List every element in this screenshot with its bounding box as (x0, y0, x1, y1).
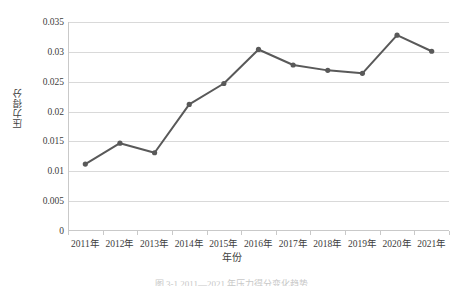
x-tick-mark (207, 231, 208, 235)
y-axis-tick-labels: 00.0050.010.0150.020.0250.030.035 (24, 0, 64, 286)
x-tick-mark (449, 231, 450, 235)
y-tick-label: 0.035 (24, 17, 64, 27)
x-tick-mark (414, 231, 415, 235)
x-axis-ticks (68, 231, 449, 237)
data-point-marker (221, 81, 226, 86)
data-point-marker (360, 71, 365, 76)
data-point-marker (291, 62, 296, 67)
x-axis-tick-labels: 2011年2012年2013年2014年2015年2016年2017年2018年… (68, 238, 451, 252)
data-point-marker (394, 33, 399, 38)
y-tick-label: 0.005 (24, 196, 64, 206)
data-point-marker (429, 49, 434, 54)
x-tick-mark (137, 231, 138, 235)
y-tick-label: 0.025 (24, 77, 64, 87)
y-tick-label: 0.01 (24, 166, 64, 176)
figure-caption: 图 3-1 2011—2021 年压力得分变化趋势 (0, 279, 463, 286)
x-tick-mark (172, 231, 173, 235)
data-point-marker (187, 102, 192, 107)
x-tick-mark (68, 231, 69, 235)
data-point-marker (117, 141, 122, 146)
data-point-marker (325, 68, 330, 73)
y-tick-label: 0 (24, 226, 64, 236)
x-tick-label: 2021年 (409, 238, 455, 250)
x-tick-mark (380, 231, 381, 235)
data-point-marker (83, 162, 88, 167)
x-tick-mark (276, 231, 277, 235)
chart-figure: 压力得分 00.0050.010.0150.020.0250.030.035 2… (0, 0, 463, 286)
x-tick-mark (241, 231, 242, 235)
data-series-line (68, 22, 449, 231)
y-tick-label: 0.03 (24, 47, 64, 57)
x-tick-mark (345, 231, 346, 235)
y-tick-label: 0.015 (24, 136, 64, 146)
x-axis-title: 年份 (0, 252, 463, 264)
x-tick-mark (310, 231, 311, 235)
data-point-marker (256, 47, 261, 52)
data-point-marker (152, 150, 157, 155)
series-polyline (85, 35, 431, 164)
y-tick-label: 0.02 (24, 107, 64, 117)
x-tick-mark (103, 231, 104, 235)
plot-area (68, 22, 449, 231)
